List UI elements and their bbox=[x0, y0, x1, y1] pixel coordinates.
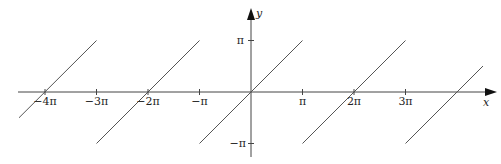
y-tick-label: −π bbox=[230, 137, 246, 150]
segment-5 bbox=[406, 66, 484, 144]
x-tick-label: −3π bbox=[85, 95, 108, 108]
y-axis-label: y bbox=[255, 7, 263, 20]
x-tick-label: −2π bbox=[136, 95, 159, 108]
sawtooth-plot: −4π −3π −2π −π π 2π 3π π −π x y bbox=[0, 0, 501, 164]
x-axis-arrow-icon bbox=[485, 88, 497, 96]
x-tick-label: π bbox=[299, 95, 306, 108]
x-tick-label: 2π bbox=[347, 95, 361, 108]
y-axis-arrow-icon bbox=[247, 8, 255, 20]
x-tick-label: −4π bbox=[33, 95, 56, 108]
x-axis-label: x bbox=[483, 96, 490, 109]
y-tick-label: π bbox=[237, 34, 244, 47]
x-tick-label: −π bbox=[191, 95, 207, 108]
x-tick-label: 3π bbox=[398, 95, 412, 108]
